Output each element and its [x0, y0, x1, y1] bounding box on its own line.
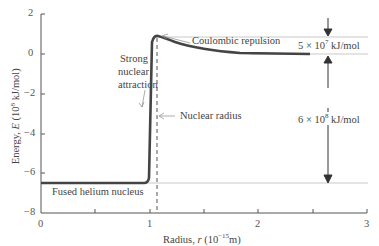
y-tick-m2: −2	[24, 87, 35, 98]
y-tick-2: 2	[28, 7, 33, 18]
x-axis-label: Radius, r (10−15m)	[163, 232, 241, 245]
y-tick-m6: −6	[24, 166, 35, 177]
y-tick-0: 0	[28, 47, 33, 58]
coulombic-repulsion-label: Coulombic repulsion	[192, 35, 280, 46]
y-tick-m8: −8	[24, 206, 35, 217]
fused-helium-label: Fused helium nucleus	[52, 186, 144, 197]
binding-energy-label: 6 × 108 kJ/mol	[298, 112, 360, 125]
x-tick-0: 0	[38, 218, 43, 229]
y-tick-m4: −4	[24, 127, 35, 138]
energy-curve	[41, 36, 310, 183]
x-tick-1: 1	[147, 218, 152, 229]
strong-nuclear-attraction-label: Strong nuclear attraction	[118, 52, 148, 91]
x-tick-2: 2	[255, 218, 260, 229]
x-tick-3: 3	[364, 218, 369, 229]
nuclear-radius-label: Nuclear radius	[180, 110, 242, 121]
energy-barrier-label: 5 × 107 kJ/mol	[298, 38, 360, 51]
y-axis-label: Energy, E (108 kJ/mol)	[9, 56, 22, 176]
